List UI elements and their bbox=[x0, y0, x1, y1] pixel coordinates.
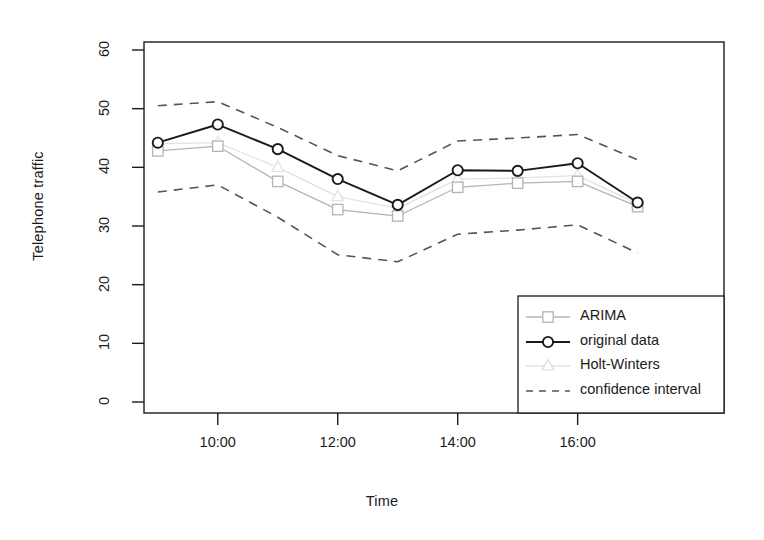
marker-original-data-7 bbox=[573, 158, 583, 168]
marker-original-data-2 bbox=[273, 144, 283, 154]
legend-label-original-data: original data bbox=[580, 332, 659, 348]
confidence-interval-upper-line bbox=[158, 102, 638, 171]
y-tick-label-50: 50 bbox=[96, 88, 112, 128]
y-tick-label-0: 0 bbox=[96, 381, 112, 421]
x-axis-title: Time bbox=[366, 493, 398, 509]
marker-original-data-3 bbox=[333, 174, 343, 184]
legend-label-arima: ARIMA bbox=[580, 307, 626, 323]
y-tick-label-60: 60 bbox=[96, 29, 112, 69]
marker-original-data-0 bbox=[153, 138, 163, 148]
marker-original-data-8 bbox=[633, 197, 643, 207]
x-axis-title-container: Time bbox=[0, 493, 764, 509]
marker-original-data-4 bbox=[393, 200, 403, 210]
marker-arima-7 bbox=[572, 176, 582, 186]
marker-arima-1 bbox=[213, 141, 223, 151]
x-tick-label-14-00: 14:00 bbox=[418, 434, 498, 450]
y-axis-title-container: Telephone traffic bbox=[30, 106, 46, 306]
legend-icon-arima bbox=[543, 312, 553, 322]
marker-arima-5 bbox=[452, 182, 462, 192]
y-axis-title: Telephone traffic bbox=[30, 151, 46, 261]
y-tick-label-10: 10 bbox=[96, 322, 112, 362]
marker-arima-2 bbox=[273, 176, 283, 186]
telephone-traffic-forecast-chart: Telephone traffic Time 0102030405060 10:… bbox=[0, 0, 764, 540]
y-tick-label-30: 30 bbox=[96, 205, 112, 245]
y-tick-label-40: 40 bbox=[96, 146, 112, 186]
plot-canvas bbox=[0, 0, 764, 540]
marker-original-data-1 bbox=[213, 119, 223, 129]
x-tick-label-16-00: 16:00 bbox=[538, 434, 618, 450]
legend-label-holt-winters: Holt-Winters bbox=[580, 356, 660, 372]
marker-holt-winters-3 bbox=[332, 190, 344, 200]
legend-icon-original-data bbox=[543, 337, 553, 347]
marker-arima-6 bbox=[512, 178, 522, 188]
marker-arima-3 bbox=[333, 204, 343, 214]
x-tick-label-12-00: 12:00 bbox=[298, 434, 378, 450]
y-tick-label-20: 20 bbox=[96, 264, 112, 304]
x-tick-label-10-00: 10:00 bbox=[178, 434, 258, 450]
marker-original-data-6 bbox=[513, 166, 523, 176]
legend-label-confidence-interval: confidence interval bbox=[580, 381, 701, 397]
series-line-original-data bbox=[158, 125, 638, 205]
marker-original-data-5 bbox=[453, 165, 463, 175]
marker-arima-4 bbox=[393, 211, 403, 221]
confidence-interval-lower-line bbox=[158, 185, 638, 262]
